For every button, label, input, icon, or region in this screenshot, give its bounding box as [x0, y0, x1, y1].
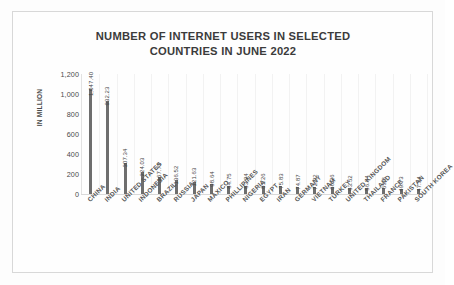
y-axis-tick-label: 1,000 — [47, 90, 79, 99]
y-axis-tick-label: 600 — [47, 130, 79, 139]
y-axis-tick-label: 400 — [47, 150, 79, 159]
y-axis-title: IN MILLION — [36, 78, 43, 138]
bar-value-label: 74.87 — [295, 174, 301, 190]
chart-title: NUMBER OF INTERNET USERS IN SELECTED COU… — [43, 29, 403, 59]
bar-value-label: 1,047.40 — [88, 72, 94, 96]
y-axis-tick-label: 1,200 — [47, 70, 79, 79]
bar[interactable] — [106, 101, 109, 194]
y-axis: 02004006008001,0001,200 — [47, 68, 79, 200]
bar[interactable] — [89, 89, 92, 194]
bar-value-label: 932.23 — [105, 86, 111, 105]
bar-value-label: 98.64 — [208, 171, 214, 187]
chart-title-line-2: COUNTRIES IN JUNE 2022 — [43, 44, 403, 59]
y-axis-tick-label: 800 — [47, 110, 79, 119]
bar[interactable] — [124, 163, 127, 194]
bar-value-label: 307.34 — [122, 149, 128, 168]
y-axis-tick-label: 200 — [47, 170, 79, 179]
y-axis-tick-label: 0 — [47, 190, 79, 199]
chart-frame: NUMBER OF INTERNET USERS IN SELECTED COU… — [12, 11, 433, 273]
chart-title-line-1: NUMBER OF INTERNET USERS IN SELECTED — [43, 29, 403, 44]
